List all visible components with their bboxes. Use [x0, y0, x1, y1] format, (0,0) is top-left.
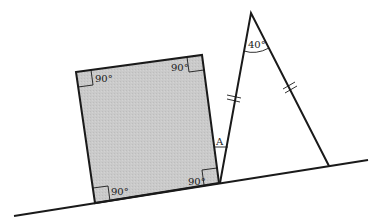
apex-angle-label: 40° [248, 39, 266, 50]
equal-side-ticks-left [227, 95, 241, 102]
angle-label-top-right: 90° [171, 62, 189, 73]
angle-a-label: A [215, 136, 224, 147]
angle-label-top-left: 90° [95, 73, 113, 84]
angle-label-bottom-left: 90° [111, 186, 129, 197]
geometry-diagram: 90° 90° 90° 90° 40° A [0, 0, 373, 222]
triangle-shape [220, 13, 329, 183]
